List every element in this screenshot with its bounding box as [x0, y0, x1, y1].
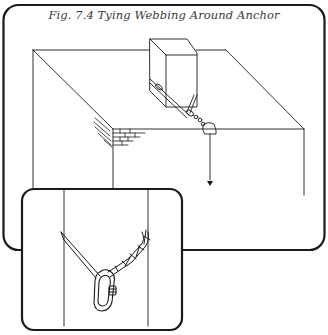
rope-down-arrow-icon [207, 181, 213, 186]
figure-title: Fig. 7.4 Tying Webbing Around Anchor [0, 8, 328, 22]
figure-diagram [0, 0, 328, 335]
anchor-block [150, 39, 197, 107]
inset-frame [22, 189, 182, 330]
brick-corner-icon [94, 118, 145, 147]
edge-protector [203, 123, 216, 180]
